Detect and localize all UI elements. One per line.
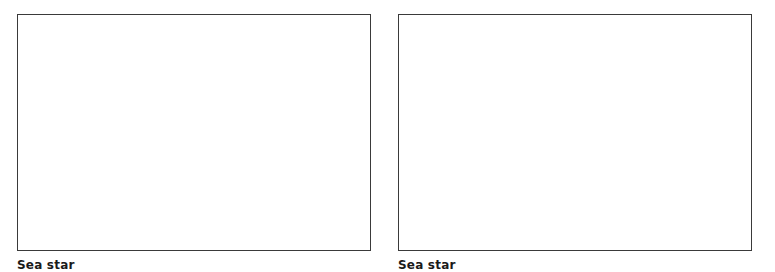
image-panel-left: Sea star — [17, 14, 372, 251]
caption-left: Sea star — [17, 258, 75, 272]
image-panel-right: Sea star — [398, 14, 753, 251]
image-frame-right — [398, 14, 752, 251]
image-frame-left — [17, 14, 371, 251]
caption-right: Sea star — [398, 258, 456, 272]
